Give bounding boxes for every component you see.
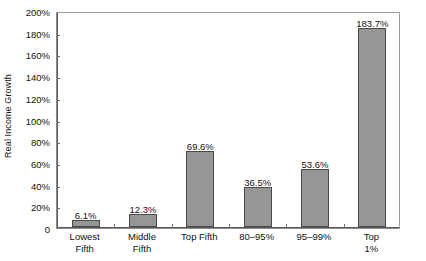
y-axis-tick-label: 80% <box>31 137 50 148</box>
y-axis-tick-mark <box>57 208 60 209</box>
y-axis-tick-label: 140% <box>26 72 50 83</box>
bar-value-label: 183.7% <box>356 18 388 29</box>
y-axis-tick-mark <box>57 78 60 79</box>
x-axis-category-label: Top Fifth <box>181 231 217 243</box>
x-axis-tick-mark <box>114 224 115 228</box>
bar-value-label: 69.6% <box>187 141 214 152</box>
bar <box>186 151 214 227</box>
y-axis-tick-label: 100% <box>26 115 50 126</box>
x-axis-category-label: Top 1% <box>357 231 386 254</box>
y-axis-tick-mark <box>57 100 60 101</box>
y-axis-tick-label: 0 <box>45 224 50 235</box>
y-axis-tick-label: 40% <box>31 180 50 191</box>
x-axis-category-label: Lowest Fifth <box>70 231 100 254</box>
x-axis-category-label: 80–95% <box>239 231 274 243</box>
x-axis-tick-mark <box>172 224 173 228</box>
y-axis-line <box>57 13 58 228</box>
y-axis-tick-mark <box>57 143 60 144</box>
bar-value-label: 36.5% <box>244 177 271 188</box>
bar <box>358 28 386 227</box>
bar <box>129 214 157 227</box>
y-axis-tick-label: 60% <box>31 158 50 169</box>
y-axis-tick-label: 200% <box>26 7 50 18</box>
y-axis-tick-label: 120% <box>26 93 50 104</box>
y-axis-tick-label: 160% <box>26 50 50 61</box>
x-axis-tick-mark <box>229 224 230 228</box>
bar <box>244 187 272 227</box>
bar-value-label: 6.1% <box>75 210 97 221</box>
x-axis-tick-mark <box>286 224 287 228</box>
y-axis-title-text: Real Income Growth <box>3 74 13 158</box>
y-axis-tick-labels: 020%40%60%80%100%120%140%160%180%200% <box>16 12 54 229</box>
y-axis-tick-mark <box>57 56 60 57</box>
y-axis-tick-mark <box>57 122 60 123</box>
y-axis-tick-label: 180% <box>26 28 50 39</box>
x-axis-category-labels: Lowest FifthMiddle FifthTop Fifth80–95%9… <box>56 231 400 261</box>
bar-value-label: 53.6% <box>302 159 329 170</box>
bar-chart-figure: Real Income Growth 020%40%60%80%100%120%… <box>0 0 426 261</box>
bar <box>72 220 100 227</box>
bar-value-label: 12.3% <box>130 204 157 215</box>
y-axis-title: Real Income Growth <box>0 0 16 232</box>
y-axis-tick-mark <box>57 165 60 166</box>
x-axis-line <box>57 227 399 228</box>
y-axis-tick-label: 20% <box>31 202 50 213</box>
y-axis-tick-mark <box>57 187 60 188</box>
x-axis-tick-mark <box>344 224 345 228</box>
x-axis-category-label: 95–99% <box>297 231 332 243</box>
y-axis-tick-mark <box>57 35 60 36</box>
x-axis-category-label: Middle Fifth <box>128 231 156 254</box>
plot-area: 6.1%12.3%69.6%36.5%53.6%183.7% <box>56 12 400 229</box>
bar <box>301 169 329 227</box>
